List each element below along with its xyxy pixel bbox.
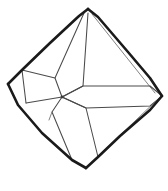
center-junction-node xyxy=(61,96,64,99)
crystal-drawing-svg xyxy=(0,0,168,191)
crystal-figure xyxy=(0,0,168,191)
